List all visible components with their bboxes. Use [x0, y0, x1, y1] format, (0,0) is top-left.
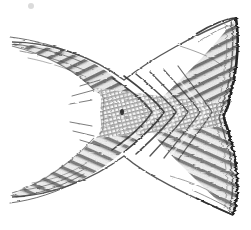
specimen-illustration	[0, 0, 251, 230]
speck-artifact	[28, 3, 34, 9]
specimen-figure: bowtie-shaped hatched specimen	[0, 0, 251, 230]
